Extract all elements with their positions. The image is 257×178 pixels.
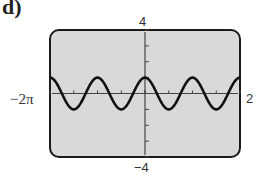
calculator-screen — [0, 0, 257, 178]
